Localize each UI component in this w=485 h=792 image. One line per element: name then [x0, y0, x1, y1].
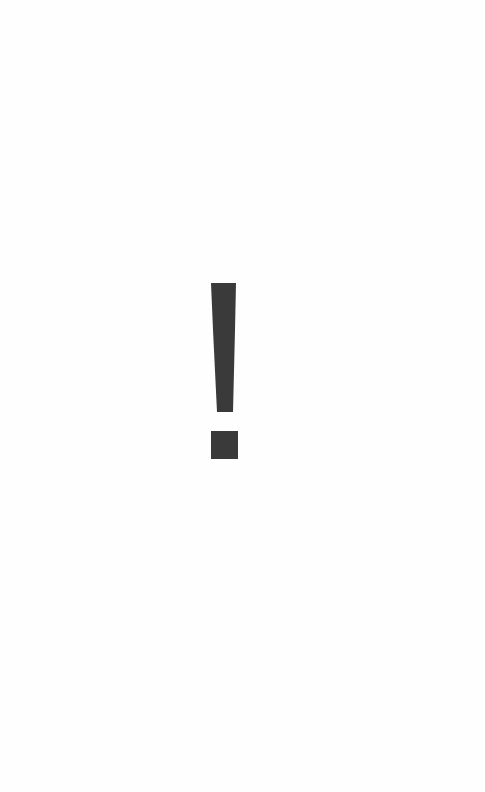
exclamation-bar: [211, 283, 236, 412]
blank-page: [0, 0, 485, 792]
exclamation-mark-icon: [0, 0, 485, 792]
exclamation-dot: [211, 431, 238, 459]
